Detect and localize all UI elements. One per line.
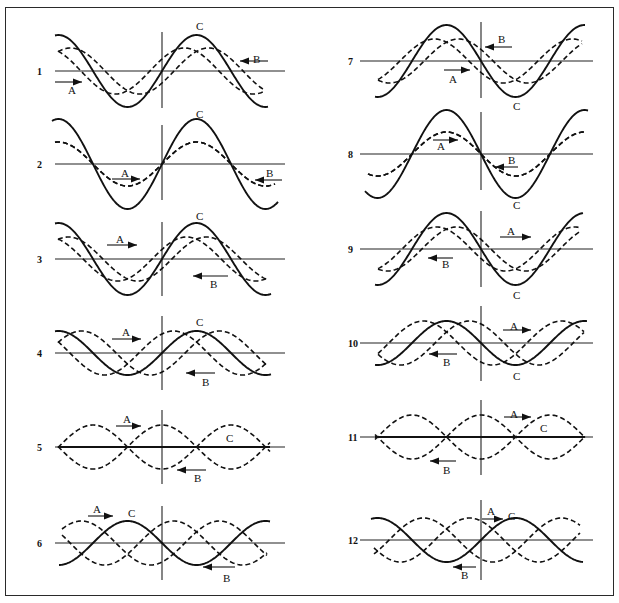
arrow-b-icon: [177, 467, 206, 474]
wave-superposition-diagram: 1CBA2CAB3CAB4CAB5CAB6ACB7BAC8ABC9ABC10AB…: [0, 0, 619, 603]
wave-label-b: B: [498, 33, 505, 45]
panel-number: 8: [348, 149, 353, 160]
wave-label-a: A: [449, 73, 457, 85]
wave-label-b: B: [223, 572, 230, 584]
wave-label-c: C: [508, 510, 515, 522]
wave-label-a: A: [93, 503, 101, 515]
wave-label-a: A: [121, 167, 129, 179]
wave-label-b: B: [508, 154, 515, 166]
wave-label-c: C: [513, 199, 520, 211]
wave-label-c: C: [513, 100, 520, 112]
wave-label-b: B: [266, 167, 273, 179]
wave-panel-9: 9ABC: [348, 211, 593, 301]
wave-label-c: C: [196, 20, 203, 32]
wave-label-c: C: [513, 370, 520, 382]
wave-panel-3: 3CAB: [37, 210, 285, 296]
wave-label-a: A: [122, 326, 130, 338]
wave-label-a: A: [510, 408, 518, 420]
wave-label-c: C: [540, 422, 547, 434]
wave-label-b: B: [461, 569, 468, 581]
wave-label-b: B: [202, 376, 209, 388]
wave-panel-4: 4CAB: [37, 316, 285, 390]
wave-panel-2: 2CAB: [37, 108, 285, 209]
wave-label-b: B: [442, 258, 449, 270]
wave-panel-11: 11ACB: [348, 400, 593, 476]
wave-label-c: C: [196, 210, 203, 222]
wave-panel-10: 10ABC: [348, 306, 593, 382]
wave-label-a: A: [68, 84, 76, 96]
wave-panel-12: 12ACB: [348, 500, 593, 581]
wave-label-a: A: [507, 225, 515, 237]
wave-panel-6: 6ACB: [37, 503, 285, 584]
panel-number: 12: [348, 535, 358, 546]
panel-number: 10: [348, 338, 358, 349]
wave-panel-1: 1CBA: [37, 20, 285, 108]
wave-label-b: B: [194, 472, 201, 484]
arrow-a-icon: [500, 234, 531, 241]
wave-label-a: A: [437, 140, 445, 152]
wave-label-c: C: [196, 108, 203, 120]
wave-label-b: B: [210, 278, 217, 290]
wave-label-b: B: [253, 53, 260, 65]
wave-label-a: A: [487, 505, 495, 517]
panel-number: 11: [348, 432, 357, 443]
panel-number: 7: [348, 56, 353, 67]
wave-label-a: A: [116, 233, 124, 245]
wave-panel-8: 8ABC: [348, 110, 593, 211]
arrow-b-icon: [186, 370, 215, 377]
wave-label-c: C: [226, 432, 233, 444]
panel-number: 2: [37, 159, 42, 170]
wave-panel-7: 7BAC: [348, 22, 593, 112]
wave-label-c: C: [196, 316, 203, 328]
panel-number: 6: [37, 538, 42, 549]
panel-number: 3: [37, 254, 42, 265]
wave-label-c: C: [128, 507, 135, 519]
panel-number: 9: [348, 244, 353, 255]
wave-label-a: A: [510, 320, 518, 332]
wave-label-a: A: [123, 413, 131, 425]
panel-number: 4: [37, 348, 42, 359]
panel-number: 1: [37, 66, 42, 77]
panel-number: 5: [37, 442, 42, 453]
arrow-b-icon: [444, 67, 470, 74]
wave-label-c: C: [513, 289, 520, 301]
arrow-b-icon: [203, 564, 235, 571]
wave-panel-5: 5CAB: [37, 410, 285, 484]
wave-label-b: B: [443, 356, 450, 368]
wave-label-b: B: [443, 464, 450, 476]
